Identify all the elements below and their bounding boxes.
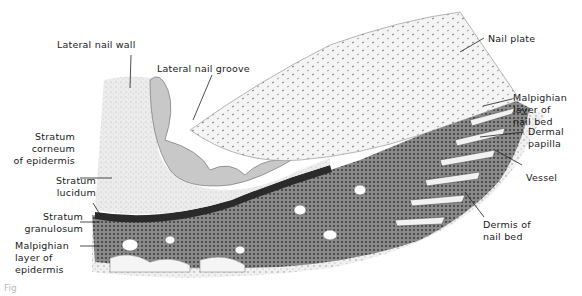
- label-vessel: Vessel: [526, 172, 557, 184]
- label-malpighian-layer-epidermis: Malpighian layer of epidermis: [15, 240, 69, 276]
- label-dermis-of-nail-bed: Dermis of nail bed: [483, 219, 531, 243]
- figure-caption-partial: Fig: [4, 283, 17, 293]
- label-stratum-corneum: Stratum corneum of epidermis: [13, 131, 75, 167]
- label-lateral-nail-groove: Lateral nail groove: [157, 63, 250, 75]
- label-malpighian-layer-nail-bed: Malpighian layer of nail bed: [513, 92, 567, 128]
- label-stratum-lucidum: Stratum lucidum: [56, 175, 96, 199]
- label-dermal-papilla: Dermal papilla: [528, 126, 564, 150]
- label-stratum-granulosum: Stratum granulosum: [25, 211, 83, 235]
- label-lateral-nail-wall: Lateral nail wall: [57, 39, 135, 51]
- label-nail-plate: Nail plate: [488, 33, 535, 45]
